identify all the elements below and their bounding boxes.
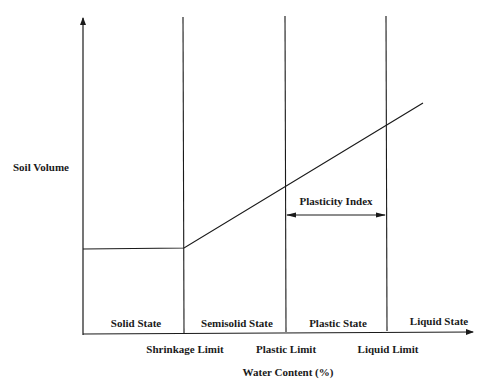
state-label-plastic: Plastic State [309,317,367,329]
state-label-liquid: Liquid State [410,315,468,327]
shrinkage-limit-line [183,17,184,333]
volume-curve [83,103,423,249]
state-label-solid: Solid State [111,317,161,329]
limit-label-shrinkage: Shrinkage Limit [146,343,223,355]
state-label-semisolid: Semisolid State [201,317,273,329]
limit-label-plastic: Plastic Limit [256,343,316,355]
limit-label-liquid: Liquid Limit [358,343,419,355]
y-axis-label: Soil Volume [13,161,69,173]
plastic-limit-line [285,16,286,332]
x-axis-label: Water Content (%) [243,366,334,378]
x-axis [83,332,473,334]
plasticity-index-label: Plasticity Index [299,195,372,207]
liquid-limit-line [386,16,387,331]
